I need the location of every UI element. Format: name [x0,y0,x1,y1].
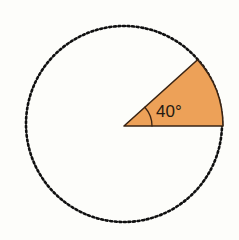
figure-canvas: 40° [0,0,239,240]
angle-label: 40° [156,102,182,121]
circle-sector-diagram: 40° [0,0,239,240]
